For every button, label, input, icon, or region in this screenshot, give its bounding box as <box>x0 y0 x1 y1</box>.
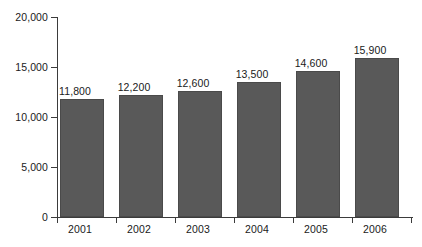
x-axis-tick <box>116 218 117 223</box>
y-axis-tick-label: 0 <box>0 212 48 223</box>
bar-value-label: 15,900 <box>333 45 407 56</box>
x-axis-tick <box>352 218 353 223</box>
bar-2005 <box>296 71 340 217</box>
bar-value-label: 14,600 <box>274 58 348 69</box>
x-axis-tick <box>234 218 235 223</box>
x-axis-tick <box>293 218 294 223</box>
bar-value-label: 13,500 <box>215 69 289 80</box>
bar-2004 <box>237 82 281 217</box>
bar-2002 <box>119 95 163 217</box>
y-axis-tick-label: 10,000 <box>0 112 48 123</box>
x-axis-tick <box>175 218 176 223</box>
x-axis-label-2006: 2006 <box>333 224 417 235</box>
bar-2001 <box>60 99 104 217</box>
bar-2006 <box>355 58 399 217</box>
y-axis-tick-label: 15,000 <box>0 62 48 73</box>
y-axis-tick-label: 5,000 <box>0 162 48 173</box>
bar-chart: 0 5,000 10,000 15,000 20,000 11,800 12,2… <box>0 0 422 247</box>
y-axis-tick-label: 20,000 <box>0 12 48 23</box>
bar-value-label: 12,600 <box>156 78 230 89</box>
x-axis-tick <box>411 218 412 223</box>
scan-artifact <box>0 240 422 247</box>
x-axis-tick <box>57 218 58 223</box>
x-axis-line <box>57 217 413 218</box>
bar-2003 <box>178 91 222 217</box>
